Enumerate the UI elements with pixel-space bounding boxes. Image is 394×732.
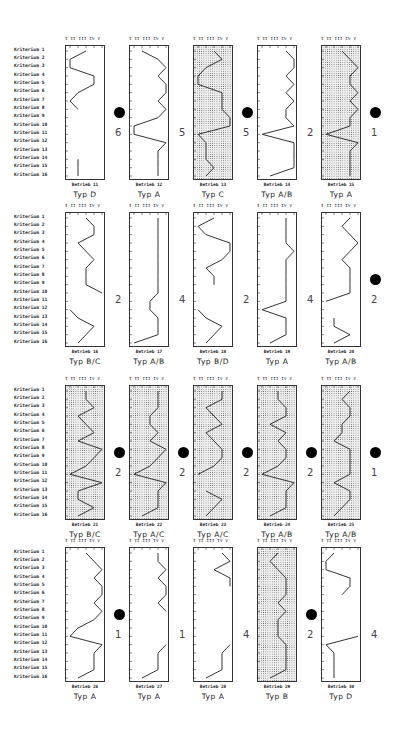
profile-frame bbox=[257, 45, 297, 180]
profile-line bbox=[198, 310, 222, 343]
marker-dot-icon bbox=[178, 447, 189, 458]
group-count: 2 bbox=[243, 294, 249, 305]
profile-panel: I II III IV VBetrieb 16Typ B/C bbox=[65, 212, 105, 347]
typ-label: Typ D bbox=[321, 692, 361, 701]
typ-label: Typ A/B bbox=[257, 190, 297, 199]
criterion-label: Kriterium 14 bbox=[14, 658, 47, 663]
axis-scale-label: I II III IV V bbox=[193, 203, 233, 208]
group-count: 2 bbox=[307, 467, 313, 478]
profile-panel: I II III IV VBetrieb 12Typ A bbox=[129, 45, 169, 180]
criterion-label: Kriterium 14 bbox=[14, 323, 47, 328]
axis-scale-label: I II III IV V bbox=[129, 36, 169, 41]
criterion-label: Kriterium 10 bbox=[14, 625, 47, 630]
criterion-label: Kriterium 15 bbox=[14, 666, 47, 671]
axis-scale-label: I II III IV V bbox=[257, 36, 297, 41]
group-count: 2 bbox=[115, 294, 121, 305]
profile-line bbox=[334, 318, 350, 343]
profile-line bbox=[158, 553, 166, 611]
criterion-label: Kriterium 2 bbox=[14, 558, 44, 563]
typ-label: Typ B/D bbox=[193, 357, 233, 366]
group-count: 4 bbox=[179, 294, 185, 305]
profile-line bbox=[70, 310, 94, 343]
profile-frame bbox=[129, 212, 169, 347]
criterion-label: Kriterium 8 bbox=[14, 608, 44, 613]
criterion-label: Kriterium 5 bbox=[14, 81, 44, 86]
typ-label: Typ B bbox=[257, 692, 297, 701]
marker-dot-icon bbox=[114, 609, 125, 620]
profile-frame bbox=[321, 547, 361, 682]
group-count: 5 bbox=[243, 127, 249, 138]
profile-frame bbox=[65, 45, 105, 180]
betrieb-label: Betrieb 27 bbox=[129, 684, 169, 689]
profile-line bbox=[326, 51, 358, 176]
criterion-label: Kriterium 10 bbox=[14, 290, 47, 295]
profile-frame bbox=[193, 547, 233, 682]
profile-frame bbox=[129, 45, 169, 180]
profile-panel: I II III IV VBetrieb 30Typ D bbox=[321, 547, 361, 682]
profile-panel: I II III IV VBetrieb 11Typ D bbox=[65, 45, 105, 180]
criterion-label: Kriterium 13 bbox=[14, 148, 47, 153]
profile-line bbox=[78, 218, 102, 293]
criterion-label: Kriterium 16 bbox=[14, 173, 47, 178]
typ-label: Typ A bbox=[129, 692, 169, 701]
axis-scale-label: I II III IV V bbox=[193, 538, 233, 543]
profile-panel: I II III IV VBetrieb 23Typ A/C bbox=[193, 385, 233, 520]
criterion-label: Kriterium 12 bbox=[14, 306, 47, 311]
profile-line bbox=[262, 51, 294, 176]
profile-frame-shaded bbox=[321, 45, 361, 180]
profile-panel: I II III IV VBetrieb 27Typ A bbox=[129, 547, 169, 682]
betrieb-label: Betrieb 22 bbox=[129, 522, 169, 527]
criterion-label: Kriterium 15 bbox=[14, 164, 47, 169]
profile-line bbox=[326, 636, 358, 678]
criterion-label: Kriterium 3 bbox=[14, 566, 44, 571]
profile-panel: I II III IV VBetrieb 14Typ A/B bbox=[257, 45, 297, 180]
criterion-label: Kriterium 11 bbox=[14, 298, 47, 303]
profile-frame bbox=[193, 212, 233, 347]
marker-dot-icon bbox=[306, 609, 317, 620]
group-count: 2 bbox=[243, 467, 249, 478]
group-count: 6 bbox=[115, 127, 121, 138]
criterion-label: Kriterium 1 bbox=[14, 388, 44, 393]
criterion-label: Kriterium 2 bbox=[14, 56, 44, 61]
betrieb-label: Betrieb 17 bbox=[129, 349, 169, 354]
profile-frame bbox=[257, 212, 297, 347]
profile-line bbox=[198, 391, 222, 474]
profile-frame-shaded bbox=[257, 385, 297, 520]
marker-dot-icon bbox=[370, 274, 381, 285]
typ-label: Typ B/C bbox=[65, 357, 105, 366]
criterion-label: Kriterium 10 bbox=[14, 123, 47, 128]
profile-panel: I II III IV VBetrieb 18Typ B/D bbox=[193, 212, 233, 347]
profile-line bbox=[70, 391, 102, 516]
group-count: 4 bbox=[371, 629, 377, 640]
axis-scale-label: I II III IV V bbox=[65, 376, 105, 381]
profile-line bbox=[134, 391, 166, 516]
criterion-label: Kriterium 12 bbox=[14, 641, 47, 646]
marker-dot-icon bbox=[114, 107, 125, 118]
criterion-label: Kriterium 12 bbox=[14, 479, 47, 484]
profile-line bbox=[198, 51, 230, 176]
profile-line bbox=[134, 218, 158, 343]
axis-scale-label: I II III IV V bbox=[129, 376, 169, 381]
axis-scale-label: I II III IV V bbox=[65, 203, 105, 208]
marker-dot-icon bbox=[242, 107, 253, 118]
criterion-label: Kriterium 13 bbox=[14, 650, 47, 655]
profile-panel: I II III IV VBetrieb 17Typ A/B bbox=[129, 212, 169, 347]
criterion-label: Kriterium 8 bbox=[14, 446, 44, 451]
group-count: 1 bbox=[179, 629, 185, 640]
profile-line bbox=[262, 218, 294, 343]
typ-label: Typ A/B bbox=[321, 357, 361, 366]
profile-line bbox=[326, 218, 358, 301]
profile-line bbox=[70, 553, 102, 678]
profile-line bbox=[214, 553, 230, 586]
profile-panel: I II III IV VBetrieb 26Typ A bbox=[65, 547, 105, 682]
axis-scale-label: I II III IV V bbox=[257, 203, 297, 208]
criterion-label: Kriterium 9 bbox=[14, 114, 44, 119]
betrieb-label: Betrieb 20 bbox=[321, 349, 361, 354]
betrieb-label: Betrieb 28 bbox=[193, 684, 233, 689]
typ-label: Typ D bbox=[65, 190, 105, 199]
profile-panel: I II III IV VBetrieb 20Typ A/B bbox=[321, 212, 361, 347]
marker-dot-icon bbox=[370, 447, 381, 458]
profile-frame-shaded bbox=[321, 385, 361, 520]
typ-label: Typ A bbox=[129, 190, 169, 199]
criterion-label: Kriterium 2 bbox=[14, 223, 44, 228]
